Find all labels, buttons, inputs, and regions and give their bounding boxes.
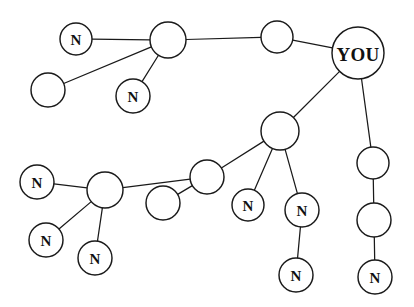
edge-l_hub-l_n_up [54, 184, 87, 188]
node-t_n_left[interactable]: N [60, 23, 92, 55]
node-r_chain_3[interactable]: N [358, 260, 392, 294]
network-canvas: YOUNNNNNNNNN [0, 0, 414, 307]
node-c_n_tail[interactable]: N [279, 258, 313, 292]
node-circle-t_hub[interactable] [150, 22, 186, 58]
edge-you-r_chain_1 [362, 79, 371, 147]
node-t_blank[interactable] [31, 73, 65, 107]
node-c_n_right[interactable]: N [285, 193, 319, 227]
edge-c_hub-c_n_right [285, 149, 297, 193]
node-l_n_mid[interactable]: N [29, 223, 63, 257]
node-r_chain_2[interactable] [357, 203, 391, 237]
node-label-l_n_up: N [32, 175, 43, 191]
node-circle-m_node[interactable] [190, 160, 224, 194]
node-label-c_n_tail: N [291, 268, 302, 284]
node-t_mid[interactable] [261, 21, 293, 53]
node-you[interactable]: YOU [332, 27, 384, 79]
node-label-c_n_left: N [243, 198, 254, 214]
node-r_chain_1[interactable] [357, 147, 389, 179]
edge-layer [54, 37, 375, 260]
node-m_node[interactable] [190, 160, 224, 194]
node-l_n_low[interactable]: N [78, 241, 112, 275]
node-label-l_n_low: N [90, 251, 101, 267]
edge-l_hub-l_n_low [97, 208, 102, 241]
node-layer: YOUNNNNNNNNN [20, 21, 392, 294]
edge-c_hub-m_node [221, 141, 264, 168]
node-label-t_n_low: N [128, 89, 139, 105]
node-t_hub[interactable] [150, 22, 186, 58]
node-c_n_left[interactable]: N [232, 189, 264, 221]
node-l_hub[interactable] [87, 172, 123, 208]
edge-l_hub-l_n_mid [59, 202, 91, 229]
node-circle-l_hub[interactable] [87, 172, 123, 208]
node-circle-t_blank[interactable] [31, 73, 65, 107]
node-m_blank[interactable] [146, 186, 180, 220]
node-circle-t_mid[interactable] [261, 21, 293, 53]
node-label-t_n_left: N [71, 32, 82, 48]
edge-you-c_hub [293, 71, 339, 117]
node-circle-m_blank[interactable] [146, 186, 180, 220]
edge-you-t_mid [293, 40, 333, 48]
edge-t_hub-t_n_low [142, 55, 158, 81]
node-label-r_chain_3: N [370, 270, 381, 286]
edge-t_hub-t_n_left [92, 39, 150, 40]
edge-c_hub-c_n_left [254, 148, 272, 190]
node-label-c_n_right: N [297, 203, 308, 219]
edge-c_n_right-c_n_tail [298, 227, 301, 258]
node-circle-r_chain_1[interactable] [357, 147, 389, 179]
node-t_n_low[interactable]: N [116, 79, 150, 113]
node-c_hub[interactable] [261, 112, 299, 150]
node-label-you: YOU [337, 44, 380, 65]
node-circle-c_hub[interactable] [261, 112, 299, 150]
network-diagram: YOUNNNNNNNNN [0, 0, 414, 307]
edge-m_node-l_hub [123, 179, 190, 188]
edge-t_mid-t_hub [186, 37, 261, 39]
edge-m_node-m_blank [178, 186, 193, 195]
node-label-l_n_mid: N [41, 233, 52, 249]
node-circle-r_chain_2[interactable] [357, 203, 391, 237]
node-l_n_up[interactable]: N [20, 165, 54, 199]
